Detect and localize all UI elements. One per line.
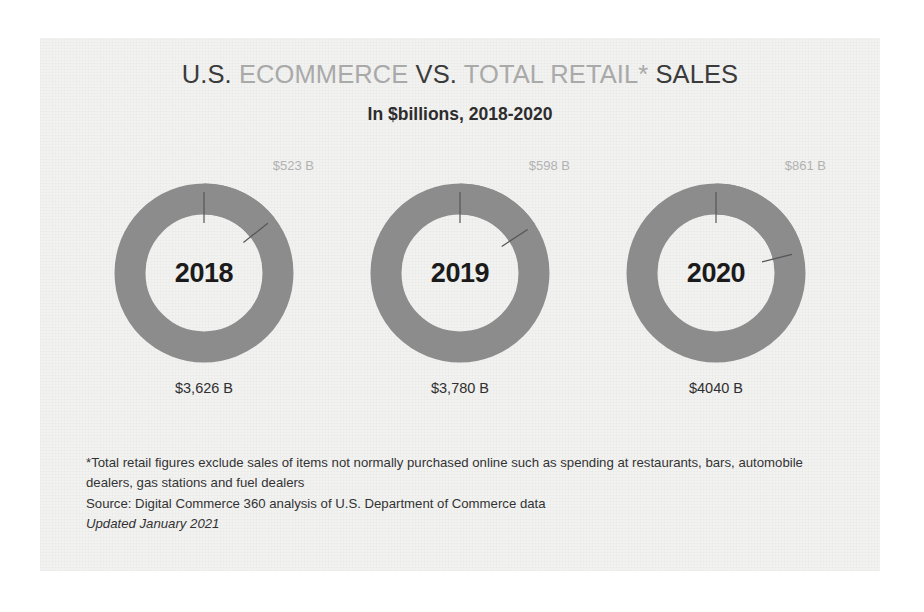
donut-total-label-2019: $3,780 B — [344, 380, 576, 396]
donut-group-2020: $861 B 2020 $4040 B — [600, 148, 832, 438]
donut-total-label-2018: $3,626 B — [88, 380, 320, 396]
footnote-methodology: *Total retail figures exclude sales of i… — [86, 453, 846, 494]
donut-ecommerce-label-2019: $598 B — [529, 158, 570, 173]
donut-chart-2018: 2018 — [111, 180, 297, 366]
donut-ecommerce-label-2020: $861 B — [785, 158, 826, 173]
title-segment-sales: SALES — [648, 60, 738, 88]
donut-svg-2020 — [623, 180, 809, 366]
donut-total-label-2020: $4040 B — [600, 380, 832, 396]
donut-chart-2020: 2020 — [623, 180, 809, 366]
footnotes: *Total retail figures exclude sales of i… — [86, 453, 846, 535]
donut-group-2018: $523 B 2018 $3,626 B — [88, 148, 320, 438]
donut-svg-2019 — [367, 180, 553, 366]
donut-chart-2019: 2019 — [367, 180, 553, 366]
donut-ecommerce-label-2018: $523 B — [273, 158, 314, 173]
title-segment-total-retail: TOTAL RETAIL* — [464, 60, 649, 88]
donut-group-2019: $598 B 2019 $3,780 B — [344, 148, 576, 438]
footnote-source: Source: Digital Commerce 360 analysis of… — [86, 494, 846, 514]
infographic-card: U.S. ECOMMERCE VS. TOTAL RETAIL* SALES I… — [40, 38, 880, 571]
title-segment-vs: VS. — [408, 60, 463, 88]
footnote-updated: Updated January 2021 — [86, 514, 846, 534]
donut-svg-2018 — [111, 180, 297, 366]
title-segment-ecommerce: ECOMMERCE — [239, 60, 409, 88]
page-title: U.S. ECOMMERCE VS. TOTAL RETAIL* SALES — [40, 60, 880, 89]
chart-subtitle: In $billions, 2018-2020 — [40, 104, 880, 125]
donut-chart-row: $523 B 2018 $3,626 B $598 B — [40, 148, 880, 438]
title-segment-us: U.S. — [182, 60, 239, 88]
